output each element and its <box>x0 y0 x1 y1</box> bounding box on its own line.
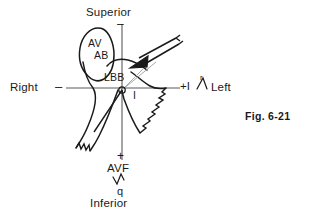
anatomy-label-ab-bundle: AB <box>94 50 108 61</box>
axis-label-avf-lead: AVF <box>107 163 129 175</box>
lead-one-r-wave-label: r <box>200 74 203 82</box>
axis-polarity-superior: – <box>117 18 124 30</box>
anatomy-label-av-node: AV <box>88 38 102 49</box>
figure-6-21: Superior – Right – +I r Left + AVF q Inf… <box>0 0 310 220</box>
figure-caption: Fig. 6-21 <box>245 111 290 122</box>
axis-polarity-right: – <box>55 80 62 93</box>
axis-polarity-left-lead-one: +I <box>180 81 190 93</box>
arrow-tail-feather <box>176 35 183 44</box>
left-ventricle-band-outer <box>76 62 95 148</box>
axis-polarity-inferior: + <box>117 150 124 162</box>
mean-vector-stroke <box>94 90 122 132</box>
avf-waveform-glyph <box>113 174 124 184</box>
left-ventricle-band-jagged-end <box>76 143 90 151</box>
left-ventricle-band-inner <box>90 90 118 151</box>
axis-label-left: Left <box>211 82 231 94</box>
axis-label-inferior: Inferior <box>90 198 127 210</box>
axis-label-superior: Superior <box>86 7 131 19</box>
arrow-shaft-upper-edge <box>139 38 176 58</box>
avf-q-wave-label: q <box>117 186 123 197</box>
depolarization-arrow <box>130 35 183 68</box>
anatomy-label-lbb: LBB <box>104 72 124 83</box>
right-loop-return-stroke <box>122 90 140 133</box>
vector-label-lead-one: I <box>133 90 136 101</box>
upper-right-myocardium-contour <box>131 72 166 89</box>
axis-label-right: Right <box>10 82 38 94</box>
arrow-shaft-lower-edge <box>143 44 179 65</box>
right-free-wall-jagged-loop <box>140 88 166 133</box>
